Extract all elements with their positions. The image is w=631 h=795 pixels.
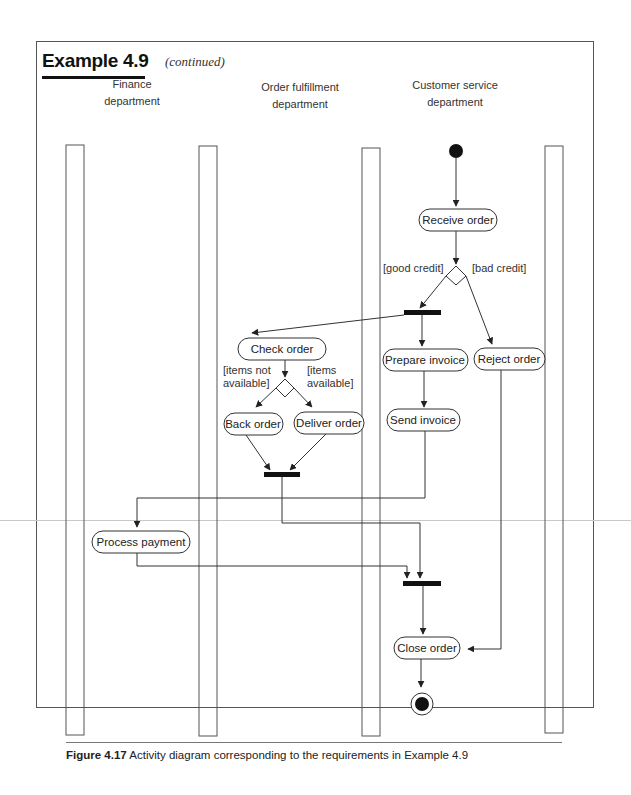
- action-prepare-invoice: Prepare invoice: [383, 349, 468, 371]
- fork-bar-1: [404, 310, 441, 315]
- action-check-order: Check order: [238, 338, 326, 360]
- svg-text:[bad credit]: [bad credit]: [472, 262, 526, 274]
- action-reject-order: Reject order: [474, 348, 545, 370]
- lane-separator-1: [66, 145, 84, 735]
- decision-credit: [446, 266, 466, 285]
- svg-text:Process payment: Process payment: [97, 536, 187, 548]
- svg-text:[items not: [items not: [223, 364, 271, 376]
- action-receive-order: Receive order: [419, 209, 497, 231]
- svg-text:Prepare invoice: Prepare invoice: [385, 354, 465, 366]
- lane-separator-2: [199, 146, 217, 736]
- svg-text:Back order: Back order: [225, 418, 281, 430]
- svg-text:available]: available]: [223, 377, 269, 389]
- svg-text:Receive order: Receive order: [422, 214, 494, 226]
- lane-separator-3: [362, 148, 380, 736]
- svg-text:Deliver order: Deliver order: [296, 417, 362, 429]
- final-node: [411, 693, 433, 715]
- figure-caption-text: Activity diagram corresponding to the re…: [129, 749, 468, 761]
- action-process-payment: Process payment: [92, 531, 190, 553]
- figure-caption: Figure 4.17 Activity diagram correspondi…: [66, 749, 468, 761]
- action-back-order: Back order: [224, 413, 283, 435]
- svg-text:available]: available]: [307, 377, 353, 389]
- join-bar-2: [403, 581, 441, 586]
- svg-text:[items: [items: [307, 364, 337, 376]
- join-bar-1: [264, 472, 300, 477]
- svg-text:Close order: Close order: [397, 642, 457, 654]
- activity-diagram: Receive order [good credit] [bad credit]…: [0, 0, 631, 795]
- action-deliver-order: Deliver order: [294, 412, 364, 434]
- initial-node: [449, 144, 463, 158]
- decision-items: [276, 379, 294, 397]
- svg-text:Send invoice: Send invoice: [390, 414, 456, 426]
- svg-text:[good credit]: [good credit]: [383, 262, 444, 274]
- svg-text:Reject order: Reject order: [478, 353, 541, 365]
- svg-text:Check order: Check order: [251, 343, 314, 355]
- action-send-invoice: Send invoice: [387, 409, 460, 431]
- figure-label: Figure 4.17: [66, 749, 127, 761]
- lane-separator-4: [545, 146, 563, 733]
- action-close-order: Close order: [394, 637, 460, 659]
- caption-divider: [66, 742, 562, 743]
